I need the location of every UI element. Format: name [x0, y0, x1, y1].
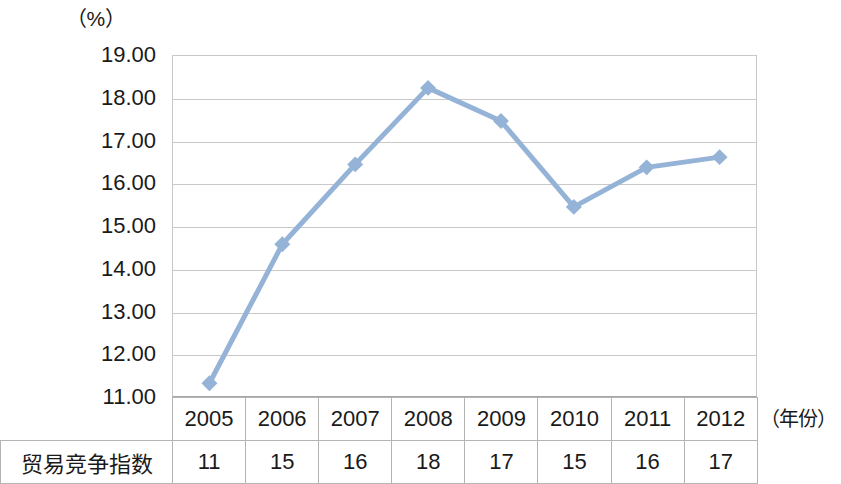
table-value-cell: 16	[319, 441, 392, 484]
table-value-cell: 15	[538, 441, 611, 484]
line-series-svg	[173, 56, 756, 396]
y-axis-tick-label: 13.00	[36, 301, 156, 323]
y-axis-tick-label: 17.00	[36, 130, 156, 152]
y-axis-tick-label: 12.00	[36, 343, 156, 365]
table-year-header-cell: 2012	[684, 398, 757, 441]
y-axis-tick-label: 18.00	[36, 87, 156, 109]
table-year-header-cell: 2006	[246, 398, 319, 441]
y-axis-tick-label: 15.00	[36, 215, 156, 237]
table-header-row: 20052006200720082009201020112012	[1, 398, 758, 441]
table-value-cell: 11	[173, 441, 246, 484]
y-axis-tick-label: 14.00	[36, 258, 156, 280]
plot-area	[172, 55, 757, 397]
table-value-cell: 15	[246, 441, 319, 484]
table-row-header-cell: 贸易竞争指数	[1, 441, 173, 484]
data-point-marker[interactable]	[712, 149, 728, 165]
table-value-cell: 16	[611, 441, 684, 484]
table-row: 贸易竞争指数1115161817151617	[1, 441, 758, 484]
table-year-header-cell: 2010	[538, 398, 611, 441]
table-value-cell: 17	[465, 441, 538, 484]
table-value-cell: 18	[392, 441, 465, 484]
table-corner-cell	[1, 398, 173, 441]
y-axis-tick-label: 16.00	[36, 172, 156, 194]
table-year-header-cell: 2008	[392, 398, 465, 441]
table-year-header-cell: 2007	[319, 398, 392, 441]
table-value-cell: 17	[684, 441, 757, 484]
table-year-header-cell: 2011	[611, 398, 684, 441]
data-table: 20052006200720082009201020112012 贸易竞争指数1…	[0, 397, 758, 484]
table-year-header-cell: 2009	[465, 398, 538, 441]
x-axis-title: （年份）	[760, 398, 836, 440]
table-body: 贸易竞争指数1115161817151617	[1, 441, 758, 484]
series-line	[209, 88, 719, 383]
y-axis-tick-label: 19.00	[36, 44, 156, 66]
table-year-header-cell: 2005	[173, 398, 246, 441]
